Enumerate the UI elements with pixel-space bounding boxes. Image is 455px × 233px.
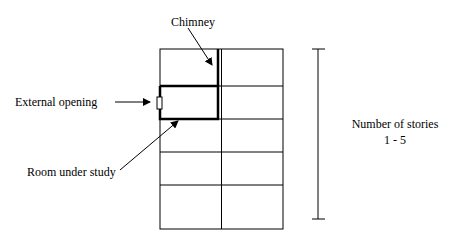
- external-opening-window: [157, 97, 162, 109]
- chimney-label: Chimney: [171, 16, 215, 28]
- chimney-arrow-icon: [188, 28, 212, 65]
- external-opening-label: External opening: [15, 96, 97, 108]
- stories-title-label: Number of stories: [340, 118, 450, 130]
- room-under-study-arrow-icon: [120, 121, 178, 170]
- building-grid: [160, 49, 283, 229]
- stories-dimension-bar: [312, 49, 325, 219]
- room-under-study-label: Room under study: [27, 166, 116, 178]
- room-under-study-outline: [160, 86, 218, 119]
- stories-range-label: 1 - 5: [340, 134, 450, 146]
